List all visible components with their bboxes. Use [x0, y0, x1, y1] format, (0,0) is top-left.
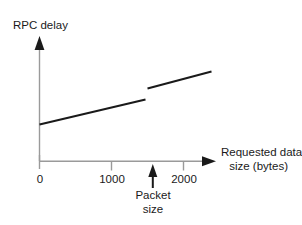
x-tick-label-1000: 1000	[99, 173, 125, 185]
x-tick-label-0: 0	[37, 173, 43, 185]
packet-size-arrowhead-icon	[148, 164, 157, 177]
packet-size-annotation-line-1: Packet	[135, 189, 170, 203]
data-line-segment-2	[148, 72, 212, 89]
packet-size-annotation: Packet size	[135, 189, 170, 217]
y-axis-arrowhead-icon	[35, 36, 45, 50]
chart-figure: RPC delay Requested data size (bytes) 0 …	[0, 0, 302, 225]
x-axis-label-line-2: size (bytes)	[221, 160, 302, 174]
x-axis-label: Requested data size (bytes)	[221, 146, 302, 173]
data-line-segment-1	[40, 100, 146, 125]
x-tick-label-2000: 2000	[171, 173, 197, 185]
y-axis-label: RPC delay	[13, 19, 68, 33]
packet-size-annotation-line-2: size	[135, 203, 170, 217]
x-axis-arrowhead-icon	[202, 156, 216, 166]
x-axis-label-line-1: Requested data	[221, 146, 302, 158]
